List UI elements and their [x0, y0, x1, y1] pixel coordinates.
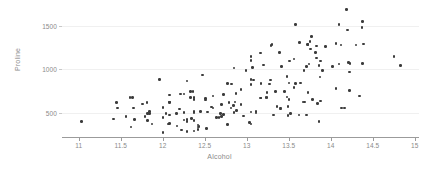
data-point — [193, 119, 196, 122]
data-point — [220, 103, 223, 106]
data-point — [283, 90, 286, 93]
data-point — [168, 114, 171, 117]
data-point — [251, 66, 254, 69]
data-point — [80, 120, 83, 123]
data-point — [168, 94, 171, 97]
data-point — [186, 80, 189, 83]
data-point — [286, 75, 289, 78]
data-point — [186, 120, 189, 123]
data-point — [319, 100, 322, 103]
data-point — [250, 83, 253, 86]
data-point — [201, 74, 204, 77]
x-axis-tick — [373, 138, 374, 141]
data-point — [146, 119, 149, 122]
data-point — [318, 120, 321, 123]
data-point — [141, 103, 144, 106]
x-axis-tick-label: 13 — [243, 142, 250, 149]
x-axis-tick-label: 14 — [327, 142, 334, 149]
data-point — [151, 123, 154, 126]
data-point — [222, 93, 225, 96]
data-point — [361, 20, 364, 23]
data-point — [399, 64, 402, 67]
x-axis-tick — [289, 138, 290, 141]
data-point — [293, 86, 296, 89]
data-point — [180, 129, 183, 132]
data-point — [311, 98, 314, 101]
data-point — [146, 101, 149, 104]
data-point — [193, 98, 196, 101]
x-axis-tick-label: 12 — [159, 142, 166, 149]
data-point — [168, 101, 171, 104]
data-point — [125, 115, 128, 118]
data-point — [361, 26, 364, 29]
data-point — [183, 93, 186, 96]
data-point — [245, 69, 248, 72]
y-axis-tick-label: 1500 — [42, 22, 57, 29]
data-point — [198, 125, 201, 128]
y-axis-tick-label: 1000 — [42, 66, 57, 73]
data-point — [186, 130, 189, 133]
data-point — [309, 48, 312, 51]
data-point — [305, 65, 308, 68]
data-point — [252, 79, 255, 82]
data-point — [315, 57, 318, 60]
data-point — [205, 127, 208, 130]
data-point — [314, 51, 317, 54]
data-point — [348, 89, 351, 92]
data-point — [287, 105, 290, 108]
data-point — [305, 114, 308, 117]
gridline-y — [62, 69, 419, 70]
data-point — [294, 82, 297, 85]
data-point — [240, 88, 243, 91]
data-point — [310, 35, 313, 38]
plot-area — [62, 8, 419, 137]
data-point — [183, 119, 186, 122]
data-point — [199, 110, 202, 113]
data-point — [162, 106, 165, 109]
x-axis-tick — [247, 138, 248, 141]
data-point — [272, 114, 275, 117]
data-point — [393, 55, 396, 58]
data-point — [298, 41, 301, 44]
y-axis-tick-label: 500 — [46, 110, 57, 117]
data-point — [318, 64, 321, 67]
data-point — [288, 82, 291, 85]
y-axis-tick — [59, 26, 62, 27]
data-point — [218, 116, 221, 119]
x-axis-line — [62, 137, 419, 138]
data-point — [250, 123, 253, 126]
data-point — [226, 82, 229, 85]
data-point — [287, 114, 290, 117]
data-point — [324, 45, 327, 48]
gridline-y — [62, 113, 419, 114]
scatter-chart: Alcohol Proline 500100015001111.51212.51… — [0, 0, 439, 171]
data-point — [345, 8, 348, 11]
data-point — [293, 58, 296, 61]
data-point — [321, 69, 324, 72]
data-point — [133, 118, 136, 121]
data-point — [335, 87, 338, 90]
data-point — [319, 60, 322, 63]
data-point — [355, 44, 358, 47]
data-point — [278, 51, 281, 54]
data-point — [116, 107, 119, 110]
data-point — [269, 79, 272, 82]
data-point — [167, 123, 170, 126]
data-point — [268, 83, 271, 86]
data-point — [260, 82, 263, 85]
data-point — [240, 103, 243, 106]
data-point — [298, 114, 301, 117]
data-point — [222, 113, 225, 116]
data-point — [308, 63, 311, 66]
data-point — [204, 99, 207, 102]
y-axis-tick — [59, 69, 62, 70]
data-point — [206, 111, 209, 114]
data-point — [274, 90, 277, 93]
data-point — [335, 42, 338, 45]
data-point — [303, 101, 306, 104]
data-point — [130, 126, 133, 129]
data-point — [230, 83, 233, 86]
data-point — [279, 108, 282, 111]
data-point — [212, 95, 215, 98]
data-point — [193, 111, 196, 114]
